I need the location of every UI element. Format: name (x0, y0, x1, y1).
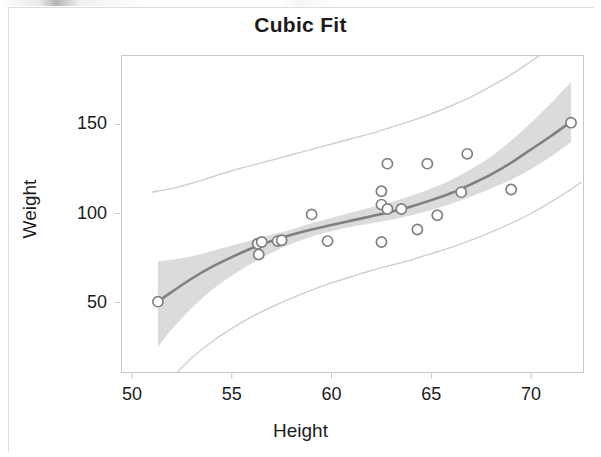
x-tick-label: 65 (401, 384, 461, 405)
figure-container: Cubic Fit Height Weight 5055606570501001… (0, 0, 601, 457)
x-tick-label: 60 (302, 384, 362, 405)
x-tick-label: 70 (501, 384, 561, 405)
y-tick-label: 100 (47, 203, 107, 224)
scatter-marker (277, 235, 287, 245)
x-axis-title: Height (0, 420, 601, 442)
scatter-marker (376, 186, 386, 196)
scatter-marker (506, 184, 516, 194)
scatter-marker (382, 204, 392, 214)
scatter-marker (306, 209, 316, 219)
y-tick-label: 50 (47, 292, 107, 313)
scatter-marker (396, 204, 406, 214)
scatter-marker (412, 224, 422, 234)
scatter-marker (382, 159, 392, 169)
confidence-band (158, 82, 571, 347)
scatter-marker (462, 149, 472, 159)
y-tick-label: 150 (47, 113, 107, 134)
x-tick-label: 50 (102, 384, 162, 405)
x-tick-label: 55 (202, 384, 262, 405)
scatter-marker (456, 187, 466, 197)
scatter-marker (376, 237, 386, 247)
scatter-marker (254, 249, 264, 259)
scatter-marker (257, 237, 267, 247)
tick-mark-group (115, 124, 531, 379)
scatter-marker (566, 118, 576, 128)
y-axis-title: Weight (19, 149, 41, 269)
scatter-marker (322, 236, 332, 246)
scatter-marker (422, 159, 432, 169)
scatter-marker (432, 210, 442, 220)
scatter-marker (153, 297, 163, 307)
